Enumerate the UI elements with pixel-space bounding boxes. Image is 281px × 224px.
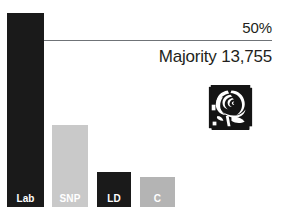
bar-c: C (140, 177, 175, 207)
fifty-percent-threshold-line (44, 40, 272, 41)
bar-label-ld: LD (97, 194, 131, 204)
threshold-percent-label: 50% (242, 20, 272, 35)
bar-label-lab: Lab (7, 194, 44, 204)
bar-lab: Lab (7, 13, 44, 207)
vote-share-bar-chart: 50% Majority 13,755 (0, 0, 281, 224)
bar-label-snp: SNP (52, 194, 88, 204)
bar-snp: SNP (52, 125, 88, 207)
bar-label-c: C (140, 194, 175, 204)
bar-ld: LD (97, 172, 131, 207)
majority-label: Majority 13,755 (159, 48, 272, 65)
labour-rose-logo (207, 83, 254, 133)
